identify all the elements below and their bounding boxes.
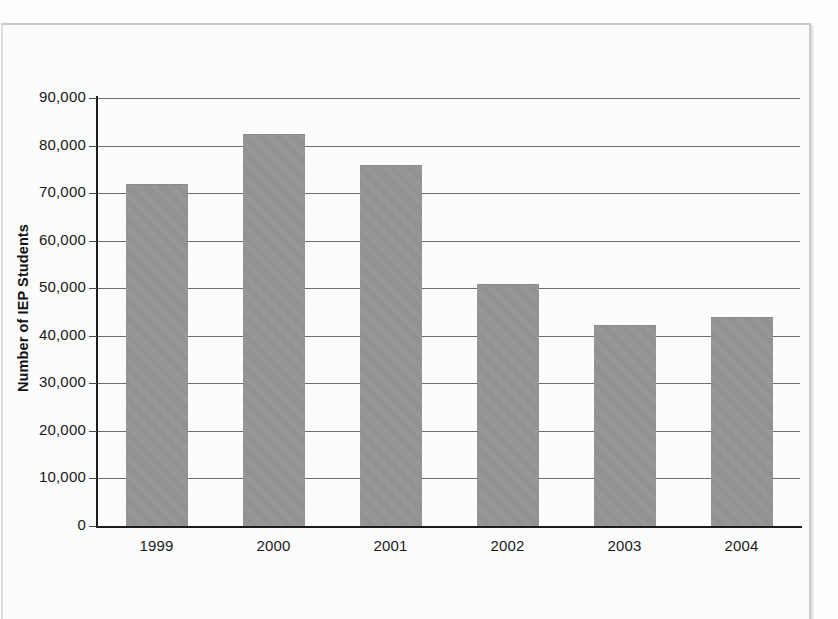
y-axis-tick — [89, 431, 97, 432]
gridline — [98, 431, 800, 432]
x-axis-tick-label: 2002 — [468, 537, 548, 554]
plot-area — [98, 98, 800, 526]
y-axis-tick — [89, 193, 97, 194]
y-axis-tick-label: 60,000 — [0, 231, 86, 248]
y-axis-tick — [89, 478, 97, 479]
gridline — [98, 98, 800, 99]
y-axis-tick-label: 50,000 — [0, 278, 86, 295]
y-axis-tick — [89, 146, 97, 147]
y-axis-tick-label: 30,000 — [0, 373, 86, 390]
bar-chart: Number of IEP Students 90,00080,00070,00… — [0, 0, 838, 619]
bar — [594, 325, 656, 526]
x-axis-tick-label: 2001 — [351, 537, 431, 554]
y-axis-tick — [89, 383, 97, 384]
y-axis-tick — [89, 98, 97, 99]
y-axis-tick — [89, 288, 97, 289]
chart-page: Number of IEP Students 90,00080,00070,00… — [0, 0, 838, 619]
gridline — [98, 478, 800, 479]
bar — [360, 165, 422, 526]
x-axis-tick-label: 2000 — [234, 537, 314, 554]
y-axis-tick-label: 0 — [0, 516, 86, 533]
x-axis-tick-label: 2004 — [702, 537, 782, 554]
y-axis-tick-label: 70,000 — [0, 183, 86, 200]
gridline — [98, 288, 800, 289]
gridline — [98, 241, 800, 242]
gridline — [98, 383, 800, 384]
y-axis-tick-label: 90,000 — [0, 88, 86, 105]
x-axis-tick-label: 1999 — [117, 537, 197, 554]
bar — [243, 134, 305, 526]
gridline — [98, 336, 800, 337]
bar — [477, 284, 539, 526]
y-axis-tick-label: 40,000 — [0, 326, 86, 343]
gridline — [98, 193, 800, 194]
y-axis-tick — [89, 241, 97, 242]
gridline — [98, 146, 800, 147]
x-axis-line — [96, 526, 802, 528]
bar — [126, 184, 188, 526]
bar — [711, 317, 773, 526]
x-axis-tick-label: 2003 — [585, 537, 665, 554]
y-axis-tick-label: 20,000 — [0, 421, 86, 438]
y-axis-tick-label: 10,000 — [0, 468, 86, 485]
y-axis-tick — [89, 336, 97, 337]
y-axis-tick-label: 80,000 — [0, 136, 86, 153]
y-axis-tick — [89, 526, 97, 527]
